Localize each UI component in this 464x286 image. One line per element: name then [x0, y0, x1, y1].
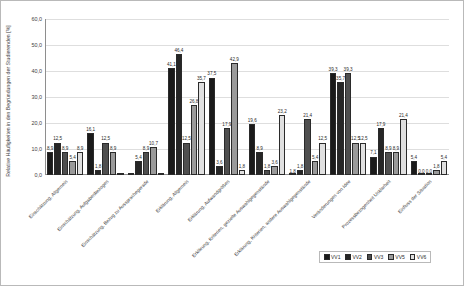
legend-label: VV3: [374, 254, 383, 260]
bar-slot: 16,1: [87, 19, 94, 175]
bar[interactable]: [378, 128, 385, 175]
bar[interactable]: [62, 152, 69, 175]
bar[interactable]: [102, 143, 109, 176]
bar[interactable]: [345, 73, 352, 175]
legend-item[interactable]: VV2: [345, 254, 361, 260]
bar[interactable]: [360, 143, 367, 176]
bar[interactable]: [143, 152, 150, 175]
bar-slot: 8,9: [77, 19, 84, 175]
legend-item[interactable]: VV6: [410, 254, 426, 260]
bar[interactable]: [411, 161, 418, 175]
bar[interactable]: [337, 82, 344, 175]
bar-slot: 19,6: [249, 19, 256, 175]
bar-group-bars: 7,117,98,98,921,4: [368, 19, 408, 175]
bar[interactable]: [304, 119, 311, 175]
bar[interactable]: [400, 119, 407, 175]
bar[interactable]: [312, 161, 319, 175]
bar[interactable]: [191, 105, 198, 175]
bar[interactable]: [393, 152, 400, 175]
bar-slot: 12,5: [352, 19, 359, 175]
bar-slot: 17,9: [378, 19, 385, 175]
bar[interactable]: [69, 161, 76, 175]
bar[interactable]: [264, 170, 271, 175]
bar[interactable]: [198, 82, 205, 175]
bar-group: 19,68,91,83,623,2: [247, 19, 287, 175]
bar[interactable]: [239, 170, 246, 175]
legend-label: VV6: [417, 254, 426, 260]
bar[interactable]: [249, 124, 256, 175]
y-axis-tick-label: 60,0: [32, 16, 43, 22]
bar[interactable]: [168, 68, 175, 175]
bar-slot: 8,9: [385, 19, 392, 175]
bar[interactable]: [441, 161, 448, 175]
bar-slot: 1,8: [297, 19, 304, 175]
bar-group-bars: 39,335,739,312,512,5: [328, 19, 368, 175]
bar[interactable]: [352, 143, 359, 176]
bar-value-label: 8,9: [47, 147, 53, 152]
bar-slot: 26,8: [191, 19, 198, 175]
legend-item[interactable]: VV5: [388, 254, 404, 260]
bar[interactable]: [176, 54, 183, 175]
bar-group: 5,48,910,7: [126, 19, 166, 175]
bar-group: 1,81,821,45,412,5: [287, 19, 327, 175]
bar-slot: [128, 19, 135, 175]
bar[interactable]: [297, 170, 304, 175]
bar-slot: 0,0: [426, 19, 433, 175]
legend-label: VV5: [395, 254, 404, 260]
bar-slot: 12,5: [183, 19, 190, 175]
bar[interactable]: [183, 143, 190, 176]
bar-value-label: 1,8: [264, 165, 270, 170]
bar-value-label: 5,4: [441, 156, 447, 161]
bar[interactable]: [271, 166, 278, 175]
bar[interactable]: [95, 170, 102, 175]
bar-slot: 37,5: [209, 19, 216, 175]
bar[interactable]: [110, 152, 117, 175]
bar-value-label: 0,0: [418, 170, 424, 175]
x-axis-label-cell: Einschätzung, Bezug zu Aussprachegerade: [126, 177, 166, 249]
bar[interactable]: [216, 166, 223, 175]
bar[interactable]: [135, 161, 142, 175]
bar-value-label: 3,6: [272, 161, 278, 166]
bar[interactable]: [370, 157, 377, 175]
bar-slot: 8,9: [393, 19, 400, 175]
bar[interactable]: [319, 143, 326, 176]
bar-value-label: 5,4: [411, 156, 417, 161]
bar[interactable]: [330, 73, 337, 175]
bar-slot: 1,8: [433, 19, 440, 175]
legend-swatch-icon: [410, 254, 416, 260]
legend-label: VV1: [331, 254, 340, 260]
bar[interactable]: [158, 173, 165, 175]
x-axis-label-cell: Erklärung, Kriterien, andere Auswahlgege…: [287, 177, 327, 249]
bar[interactable]: [54, 143, 61, 176]
legend-label: VV2: [352, 254, 361, 260]
bar-value-label: 12,5: [182, 137, 191, 142]
bar[interactable]: [117, 173, 124, 175]
bar[interactable]: [77, 152, 84, 175]
bar-group-bars: 16,11,812,58,9: [85, 19, 125, 175]
bar-value-label: 5,4: [70, 156, 76, 161]
bar[interactable]: [209, 78, 216, 176]
bar-value-label: 41,1: [167, 63, 176, 68]
bar[interactable]: [231, 63, 238, 175]
bar-group: 37,53,617,942,91,8: [207, 19, 247, 175]
bar[interactable]: [150, 147, 157, 175]
bar[interactable]: [256, 152, 263, 175]
legend-item[interactable]: VV1: [324, 254, 340, 260]
bar[interactable]: [385, 152, 392, 175]
bar-value-label: 42,9: [230, 58, 239, 63]
x-axis-label-cell: Einfluss der Situation: [409, 177, 449, 249]
legend-item[interactable]: VV3: [367, 254, 383, 260]
bar-value-label: 10,7: [149, 142, 158, 147]
bar[interactable]: [128, 173, 135, 175]
bar-slot: [158, 19, 165, 175]
bar[interactable]: [433, 170, 440, 175]
bar[interactable]: [47, 152, 54, 175]
bar-group: 39,335,739,312,512,5: [328, 19, 368, 175]
bar[interactable]: [279, 115, 286, 175]
chart-container: Relative Häufigkeiten in den Begründunge…: [0, 0, 464, 286]
bar-value-label: 5,4: [135, 156, 141, 161]
bar-value-label: 17,9: [222, 123, 231, 128]
bar[interactable]: [87, 133, 94, 175]
legend: VV1VV2VV3VV5VV6: [319, 251, 431, 263]
bar[interactable]: [224, 128, 231, 175]
